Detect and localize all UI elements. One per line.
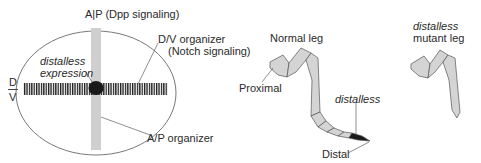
proximal-label: Proximal bbox=[239, 82, 282, 94]
mutant-leg-title-1: distalless bbox=[413, 20, 458, 32]
dv-divider bbox=[8, 89, 18, 90]
dorsal-label: D bbox=[9, 76, 17, 88]
distalless-expression-label: distalless bbox=[40, 55, 85, 67]
distalless-expression-dot bbox=[89, 81, 104, 95]
distalless-expression-label-2: expression bbox=[40, 67, 93, 79]
distal-label: Distal bbox=[322, 148, 350, 160]
normal-leg-title: Normal leg bbox=[270, 32, 323, 44]
ap-organizer-label: A/P organizer bbox=[147, 132, 213, 144]
notch-signaling-label: (Notch signaling) bbox=[168, 45, 251, 57]
dv-organizer-label: D/V organizer bbox=[158, 33, 225, 45]
distalless-leg-label: distalless bbox=[335, 93, 380, 105]
mutant-leg-title-2: mutant leg bbox=[413, 32, 464, 44]
ap-dpp-label: A|P (Dpp signaling) bbox=[85, 8, 179, 20]
ventral-label: V bbox=[9, 91, 16, 103]
mutant-leg-drawing bbox=[411, 50, 460, 118]
